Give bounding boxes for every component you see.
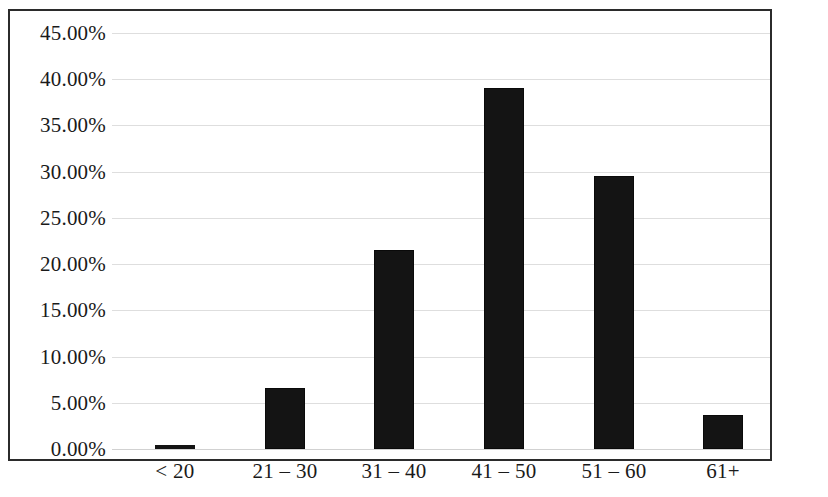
- x-axis-tick-label: 51 – 60: [581, 459, 646, 484]
- y-axis-tick-labels: 45.00%40.00%35.00%30.00%25.00%20.00%15.0…: [14, 0, 106, 497]
- x-axis-tick-label: 21 – 30: [252, 459, 317, 484]
- x-axis-tick-label: 31 – 40: [361, 459, 426, 484]
- bar: [484, 88, 524, 449]
- y-axis-tick-label: 40.00%: [40, 67, 106, 92]
- y-axis-tick-label: 20.00%: [40, 252, 106, 277]
- gridline: [112, 264, 770, 265]
- gridline: [112, 449, 770, 450]
- bar: [703, 415, 743, 449]
- y-axis-tick-label: 45.00%: [40, 21, 106, 46]
- y-axis-tick-label: 30.00%: [40, 159, 106, 184]
- bar: [155, 445, 195, 449]
- y-axis-tick-label: 5.00%: [51, 390, 106, 415]
- y-axis-tick-label: 25.00%: [40, 205, 106, 230]
- bar: [374, 250, 414, 449]
- x-axis-tick-label: < 20: [155, 459, 194, 484]
- bar: [265, 388, 305, 449]
- bar: [594, 176, 634, 449]
- y-axis-tick-label: 35.00%: [40, 113, 106, 138]
- x-axis-tick-label: 41 – 50: [471, 459, 536, 484]
- y-axis-tick-label: 10.00%: [40, 344, 106, 369]
- gridline: [112, 218, 770, 219]
- gridline: [112, 33, 770, 34]
- y-axis-tick-label: 0.00%: [51, 437, 106, 462]
- gridline: [112, 172, 770, 173]
- plot-area: 45.00%40.00%35.00%30.00%25.00%20.00%15.0…: [0, 0, 828, 497]
- chart-figure: 45.00%40.00%35.00%30.00%25.00%20.00%15.0…: [0, 0, 828, 497]
- y-axis-tick-label: 15.00%: [40, 298, 106, 323]
- x-axis-tick-label: 61+: [706, 459, 740, 484]
- gridline: [112, 403, 770, 404]
- gridline: [112, 79, 770, 80]
- gridline: [112, 357, 770, 358]
- gridline: [112, 125, 770, 126]
- gridline: [112, 310, 770, 311]
